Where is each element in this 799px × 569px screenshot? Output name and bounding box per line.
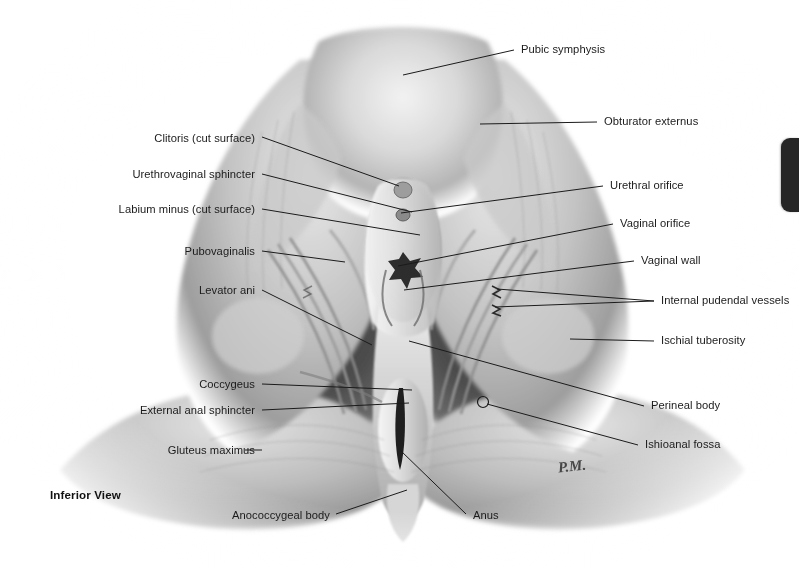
label-anus: Anus (473, 509, 499, 521)
label-urethrovaginal-sphincter: Urethrovaginal sphincter (0, 168, 255, 180)
view-orientation-note: Inferior View (50, 488, 121, 501)
label-clitoris-cut-surface: Clitoris (cut surface) (0, 132, 255, 144)
label-anococcygeal-body: Anococcygeal body (0, 509, 330, 521)
label-external-anal-sphincter: External anal sphincter (0, 404, 255, 416)
label-vaginal-wall: Vaginal wall (641, 254, 701, 266)
label-gluteus-maximus: Gluteus maximus (0, 444, 255, 456)
label-labium-minus-cut-surface: Labium minus (cut surface) (0, 203, 255, 215)
label-levator-ani: Levator ani (0, 284, 255, 296)
label-pubic-symphysis: Pubic symphysis (521, 43, 605, 55)
page-edge-tab[interactable] (781, 138, 799, 212)
label-obturator-externus: Obturator externus (604, 115, 698, 127)
label-internal-pudendal-vessels: Internal pudendal vessels (661, 294, 789, 306)
label-ishioanal-fossa: Ishioanal fossa (645, 438, 720, 450)
anatomy-plate: Clitoris (cut surface)Urethrovaginal sph… (0, 0, 799, 569)
label-vaginal-orifice: Vaginal orifice (620, 217, 690, 229)
label-urethral-orifice: Urethral orifice (610, 179, 684, 191)
label-perineal-body: Perineal body (651, 399, 720, 411)
label-coccygeus: Coccygeus (0, 378, 255, 390)
artist-signature: P.M. (557, 457, 587, 477)
label-ischial-tuberosity: Ischial tuberosity (661, 334, 745, 346)
label-pubovaginalis: Pubovaginalis (0, 245, 255, 257)
